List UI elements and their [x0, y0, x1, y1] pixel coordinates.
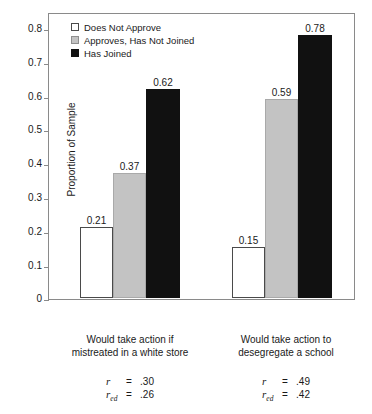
bar-group2-approves-has-not-joined: 0.59: [265, 99, 298, 298]
bar-chart-figure: Proportion of Sample 0.8 0.7 0.6 0.5 0.4…: [0, 0, 372, 414]
y-tick-label: 0.6: [28, 91, 42, 102]
y-tick-label: 0.3: [28, 192, 42, 203]
bar-value-label: 0.15: [239, 235, 258, 246]
stat-equals: =: [282, 389, 296, 401]
y-tick-mark: [44, 64, 49, 65]
bar-value-label: 0.62: [153, 77, 172, 88]
stat-red-subscript: ed: [110, 394, 117, 403]
legend-label: Approves, Has Not Joined: [84, 35, 194, 46]
y-tick-mark: [44, 165, 49, 166]
stat-r-value: .49: [296, 376, 310, 387]
white-square-icon: [71, 23, 79, 31]
stat-r-symbol: r: [106, 375, 126, 387]
bar-value-label: 0.37: [120, 161, 139, 172]
black-square-icon: [71, 49, 79, 57]
category-label-line: mistreated in a white store: [50, 346, 210, 359]
bar-group1-does-not-approve: 0.21: [80, 227, 113, 298]
bar-group2-does-not-approve: 0.15: [232, 247, 265, 298]
stat-red-subscript: ed: [266, 394, 273, 403]
y-tick-mark: [44, 267, 49, 268]
legend-label: Has Joined: [84, 48, 132, 59]
y-tick-mark: [44, 98, 49, 99]
stat-equals: =: [282, 376, 296, 388]
y-tick-label: 0.7: [28, 57, 42, 68]
legend-label: Does Not Approve: [84, 22, 161, 33]
stats-group2: r=.49 red=.42: [206, 375, 366, 405]
y-tick-label: 0.1: [28, 260, 42, 271]
category-label-line: Would take action if: [50, 333, 210, 346]
y-tick-mark: [44, 131, 49, 132]
y-tick-label: 0.8: [28, 23, 42, 34]
y-tick-mark: [44, 300, 49, 301]
legend: Does Not Approve Approves, Has Not Joine…: [71, 21, 194, 60]
stat-red-group1: red=.26: [106, 388, 154, 405]
bar-value-label: 0.21: [87, 215, 106, 226]
y-tick-label: 0: [36, 293, 42, 304]
stat-red-symbol: red: [106, 388, 126, 405]
legend-item-has-joined: Has Joined: [71, 47, 194, 59]
stat-equals: =: [126, 376, 140, 388]
stat-r-group1: r=.30: [106, 375, 154, 388]
y-tick-label: 0.4: [28, 158, 42, 169]
category-label-line: desegregate a school: [206, 346, 366, 359]
category-label-line: Would take action to: [206, 333, 366, 346]
stat-red-symbol: red: [262, 388, 282, 405]
stat-red-value: .42: [296, 389, 310, 400]
stat-red-value: .26: [140, 389, 154, 400]
gray-square-icon: [71, 36, 79, 44]
category-label-group1: Would take action if mistreated in a whi…: [50, 333, 210, 359]
stat-r-value: .30: [140, 376, 154, 387]
y-tick-label: 0.2: [28, 226, 42, 237]
y-tick-mark: [44, 233, 49, 234]
category-label-group2: Would take action to desegregate a schoo…: [206, 333, 366, 359]
bar-value-label: 0.78: [305, 23, 324, 34]
plot-area: Proportion of Sample 0.8 0.7 0.6 0.5 0.4…: [48, 13, 355, 300]
stat-equals: =: [126, 389, 140, 401]
y-axis-title: Proportion of Sample: [66, 50, 77, 250]
bar-group1-has-joined: 0.62: [146, 89, 180, 298]
bar-group1-approves-has-not-joined: 0.37: [113, 173, 146, 298]
stats-group1: r=.30 red=.26: [50, 375, 210, 405]
stat-r-group2: r=.49: [262, 375, 310, 388]
stat-r-symbol: r: [262, 375, 282, 387]
stat-red-group2: red=.42: [262, 388, 310, 405]
y-tick-mark: [44, 199, 49, 200]
legend-item-does-not-approve: Does Not Approve: [71, 21, 194, 33]
bar-value-label: 0.59: [272, 87, 291, 98]
y-tick-label: 0.5: [28, 124, 42, 135]
bar-group2-has-joined: 0.78: [298, 35, 332, 298]
legend-item-approves-has-not-joined: Approves, Has Not Joined: [71, 34, 194, 46]
y-tick-mark: [44, 30, 49, 31]
